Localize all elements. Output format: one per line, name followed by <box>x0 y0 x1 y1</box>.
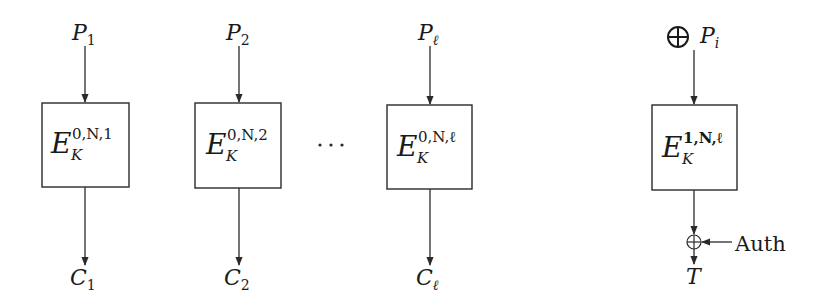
cipher-subscript: K <box>681 150 694 168</box>
ellipsis <box>318 143 343 146</box>
cipher-superscript: 0,N,2 <box>227 126 268 144</box>
output-label-c1: C1 <box>70 265 96 293</box>
xor-sum-icon <box>668 27 688 47</box>
block-l: Pℓ E 0,N,ℓ K Cℓ <box>387 20 472 293</box>
input-label-p1: P1 <box>71 20 96 48</box>
input-label-pi: Pi <box>699 23 719 51</box>
diagram-canvas: P1 E 0,N,1 K C1 P2 E 0,N,2 K C2 Pℓ E 0,N… <box>0 0 826 307</box>
block-1: P1 E 0,N,1 K C1 <box>42 20 129 293</box>
cipher-superscript: 0,N,1 <box>72 125 113 143</box>
auth-label: Auth <box>734 232 786 256</box>
cipher-superscript: 1,N,ℓ <box>683 129 723 147</box>
cipher-label: E <box>661 131 682 164</box>
cipher-label: E <box>396 130 417 163</box>
input-label-pl: Pℓ <box>417 20 439 48</box>
output-label-c2: C2 <box>224 265 250 293</box>
output-label-cl: Cℓ <box>416 265 439 293</box>
cipher-label: E <box>205 128 226 161</box>
block-tag: Pi E 1,N,ℓ K Auth T <box>652 23 786 289</box>
cipher-subscript: K <box>70 146 83 164</box>
cipher-label: E <box>50 127 71 160</box>
tag-label: T <box>686 264 703 289</box>
block-2: P2 E 0,N,2 K C2 <box>195 20 281 293</box>
cipher-subscript: K <box>416 149 429 167</box>
cipher-superscript: 0,N,ℓ <box>418 128 456 146</box>
xor-icon <box>687 235 701 249</box>
input-label-p2: P2 <box>225 20 250 48</box>
cipher-subscript: K <box>225 147 238 165</box>
